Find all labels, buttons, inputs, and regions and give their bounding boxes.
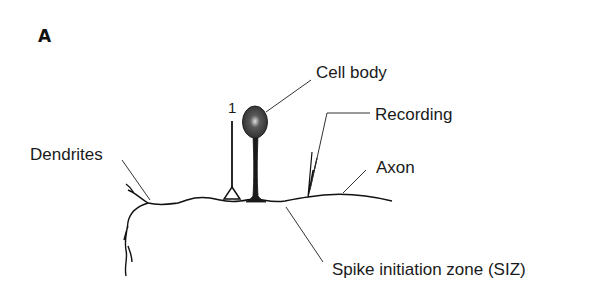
panel-label: A: [38, 26, 52, 46]
neuron-diagram-svg: A 1 Cell body Recording Dendrites Axon S…: [0, 0, 590, 308]
dendrite-branch-upper: [126, 184, 148, 203]
electrode-1-triangle: [224, 187, 240, 199]
leader-cell-body: [266, 80, 311, 112]
label-siz: Spike initiation zone (SIZ): [332, 260, 526, 279]
leader-axon: [343, 170, 366, 193]
label-axon: Axon: [376, 158, 415, 177]
label-recording: Recording: [375, 105, 453, 124]
leader-siz: [286, 207, 323, 262]
leader-recording: [310, 113, 370, 190]
neurite-main: [148, 194, 392, 204]
neuron-diagram: A 1 Cell body Recording Dendrites Axon S…: [0, 0, 590, 308]
label-dendrites: Dendrites: [30, 145, 103, 164]
cell-body: [243, 106, 268, 138]
dendrite-branch-lower: [124, 203, 148, 276]
cell-body-stalk: [246, 136, 266, 202]
label-cell-body: Cell body: [316, 63, 387, 82]
electrode-number: 1: [228, 99, 236, 116]
recording-electrode: [308, 152, 317, 197]
